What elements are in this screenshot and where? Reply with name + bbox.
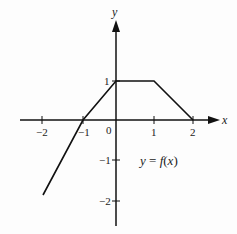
y-tick-label: −1: [99, 154, 111, 166]
origin-label: 0: [106, 124, 112, 136]
x-tick-label: −1: [78, 126, 90, 138]
function-curve: [43, 81, 193, 195]
x-tick-label: −2: [36, 126, 48, 138]
x-tick-label: 1: [151, 126, 157, 138]
y-axis-arrow-icon: [112, 20, 120, 32]
function-graph: −2 −1 0 1 2 1 −1 −2 x y y = f(x): [0, 0, 237, 234]
x-tick-label: 2: [190, 126, 196, 138]
y-tick-label: 1: [104, 75, 110, 87]
x-axis-label: x: [221, 113, 228, 127]
y-tick-label: −2: [99, 195, 111, 207]
function-label: y = f(x): [138, 153, 178, 168]
x-axis-arrow-icon: [208, 116, 220, 124]
y-axis-label: y: [111, 5, 118, 19]
